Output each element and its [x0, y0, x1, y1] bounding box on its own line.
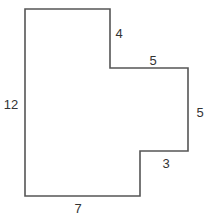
polygon-diagram: [0, 0, 208, 218]
side-label-lower-step: 3: [162, 157, 169, 170]
side-label-mid-top: 5: [149, 54, 156, 67]
side-label-right: 5: [196, 106, 203, 119]
side-label-bottom: 7: [74, 202, 81, 215]
side-label-left: 12: [4, 98, 18, 111]
side-label-top-step: 4: [115, 27, 122, 40]
